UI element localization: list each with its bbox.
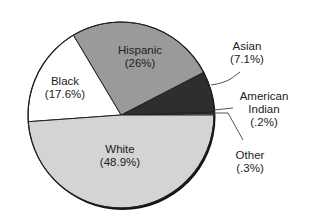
label-black-name: Black [35, 75, 95, 88]
label-white-name: White [90, 143, 150, 156]
label-hispanic-name: Hispanic [100, 44, 180, 57]
leader-line-asian [211, 72, 240, 85]
label-hispanic: Hispanic (26%) [100, 44, 180, 70]
label-asian-name: Asian [222, 40, 272, 53]
label-asian-value: (7.1%) [222, 53, 272, 66]
label-american-indian-line1: American [228, 90, 300, 103]
label-other: Other (.3%) [225, 149, 275, 175]
label-hispanic-value: (26%) [100, 57, 180, 70]
label-american-indian-value: (.2%) [228, 116, 300, 129]
label-white: White (48.9%) [90, 143, 150, 169]
label-black: Black (17.6%) [35, 75, 95, 101]
label-asian: Asian (7.1%) [222, 40, 272, 66]
label-american-indian-line2: Indian [228, 103, 300, 116]
label-american-indian: American Indian (.2%) [228, 90, 300, 129]
label-other-name: Other [225, 149, 275, 162]
label-other-value: (.3%) [225, 162, 275, 175]
label-white-value: (48.9%) [90, 156, 150, 169]
label-black-value: (17.6%) [35, 88, 95, 101]
